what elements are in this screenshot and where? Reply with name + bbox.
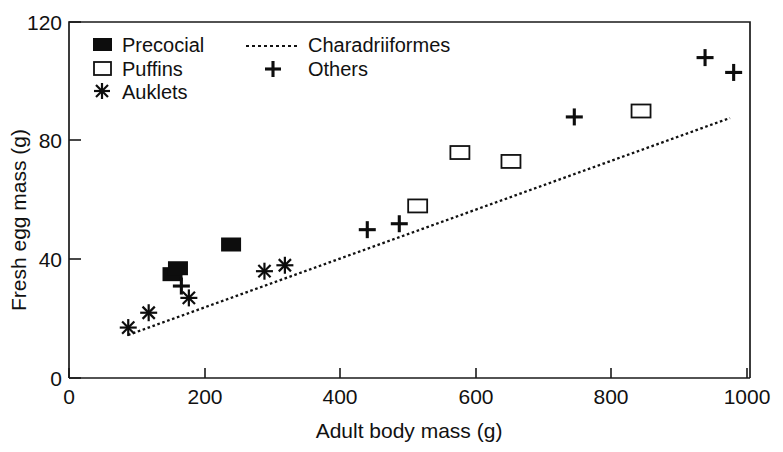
legend-label-precocial: Precocial <box>122 34 204 56</box>
y-ticklabel-0: 0 <box>50 367 62 390</box>
scatter-plot-svg: 120 80 40 0 0 200 400 600 800 1000 Adult… <box>0 0 783 452</box>
point-others-4 <box>697 49 714 66</box>
chart-legend: Precocial Puffins Auklets Charadriiforme… <box>93 34 450 103</box>
trendline-path <box>128 118 730 335</box>
data-markers-layer <box>120 49 742 336</box>
point-precocial-2 <box>221 238 241 252</box>
trendline-charadriiformes <box>128 118 730 335</box>
point-precocial-1 <box>168 261 188 275</box>
point-puffins-0 <box>408 199 427 212</box>
x-ticklabel-0: 0 <box>63 385 75 408</box>
y-axis-tick-labels: 120 80 40 0 <box>27 11 62 390</box>
point-auklets-4 <box>276 257 293 274</box>
y-ticklabel-80: 80 <box>39 129 62 152</box>
x-ticklabel-800: 800 <box>593 385 628 408</box>
series-others <box>173 49 742 294</box>
point-puffins-1 <box>450 146 469 159</box>
series-precocial <box>163 238 242 282</box>
point-auklets-1 <box>140 304 157 321</box>
point-others-5 <box>725 64 742 81</box>
series-auklets <box>120 257 294 336</box>
x-ticklabel-600: 600 <box>458 385 493 408</box>
point-auklets-3 <box>256 263 273 280</box>
point-auklets-0 <box>120 319 137 336</box>
x-ticklabel-400: 400 <box>322 385 357 408</box>
legend-marker-precocial <box>93 38 112 51</box>
legend-marker-auklets <box>94 83 110 99</box>
point-others-2 <box>391 215 408 232</box>
x-axis-ticks <box>69 368 747 378</box>
x-axis-title: Adult body mass (g) <box>316 419 503 442</box>
x-axis-tick-labels: 0 200 400 600 800 1000 <box>63 385 770 408</box>
legend-marker-puffins <box>94 62 111 75</box>
x-ticklabel-200: 200 <box>187 385 222 408</box>
y-ticklabel-120: 120 <box>27 11 62 34</box>
point-puffins-2 <box>501 155 520 168</box>
point-others-1 <box>359 221 376 238</box>
legend-label-puffins: Puffins <box>122 58 183 80</box>
point-others-3 <box>566 108 583 125</box>
x-ticklabel-1000: 1000 <box>724 385 771 408</box>
point-puffins-3 <box>632 105 651 118</box>
legend-label-charadriiformes: Charadriiformes <box>308 34 450 56</box>
legend-label-auklets: Auklets <box>122 81 188 103</box>
chart-figure: 120 80 40 0 0 200 400 600 800 1000 Adult… <box>0 0 783 452</box>
y-ticklabel-40: 40 <box>39 248 62 271</box>
legend-marker-others <box>265 61 281 77</box>
y-axis-title: Fresh egg mass (g) <box>7 129 30 311</box>
y-axis-ticks <box>69 22 81 378</box>
series-puffins <box>408 105 650 213</box>
legend-label-others: Others <box>308 58 368 80</box>
